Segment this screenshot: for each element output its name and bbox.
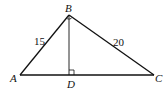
label-a: A [9,72,17,84]
length-bc: 20 [113,36,125,48]
side-bc [69,15,154,75]
right-angle-mark-d [69,70,74,75]
triangle-diagram: B A D C 15 20 [0,0,167,94]
label-d: D [66,78,75,90]
label-b: B [65,2,72,14]
label-c: C [155,72,163,84]
length-ab: 15 [34,35,46,47]
